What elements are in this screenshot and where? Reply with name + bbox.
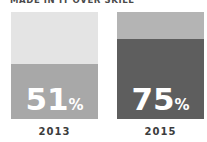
bar-2013: 51% [11, 12, 98, 119]
bar-2015-value-label: 75% [131, 87, 189, 112]
chart-caption-clipped: MADE IN IT OVER SKILL [10, 0, 207, 5]
bar-2015-value-number: 75 [131, 81, 174, 117]
bar-2013-value-label: 51% [25, 87, 83, 112]
bar-2013-value-segment: 51% [11, 64, 98, 119]
chart-caption-text: MADE IN IT OVER SKILL [10, 0, 207, 5]
bar-group-2015: 75% 2015 [117, 12, 204, 137]
bar-2013-value-number: 51 [25, 81, 68, 117]
bar-2015: 75% [117, 12, 204, 119]
stacked-bar-chart: 51% 2013 75% 2015 [11, 12, 204, 137]
bar-2013-percent-sign: % [69, 96, 84, 114]
bar-2013-remainder-segment [11, 12, 98, 64]
bar-2015-value-segment: 75% [117, 39, 204, 119]
bar-group-2013: 51% 2013 [11, 12, 98, 137]
bar-2015-remainder-segment [117, 12, 204, 39]
chart-card: MADE IN IT OVER SKILL 51% 2013 75% 2015 [0, 0, 207, 142]
bar-2015-percent-sign: % [175, 96, 190, 114]
axis-label-2013: 2013 [11, 126, 98, 137]
axis-label-2015: 2015 [117, 126, 204, 137]
